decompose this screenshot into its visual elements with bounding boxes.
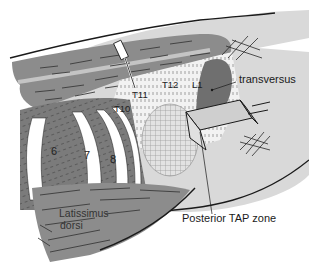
label-rib-8: 8 [110,154,116,165]
label-t12: T12 [162,80,178,90]
label-l1: L1 [192,80,203,90]
label-t11: T11 [132,90,148,100]
label-posterior-tap-zone: Posterior TAP zone [182,213,276,224]
label-latissimus: Latissimus [59,208,109,219]
tap-block-diagram: transversus Posterior TAP zone Latissimu… [0,0,309,274]
label-rib-6: 6 [51,146,57,157]
anatomy-illustration [0,0,309,274]
label-transversus: transversus [239,74,296,85]
label-t10: T10 [114,104,130,114]
label-dorsi: dorsi [60,220,83,231]
latissimus-dorsi [32,183,190,262]
label-rib-7: 7 [84,150,90,161]
